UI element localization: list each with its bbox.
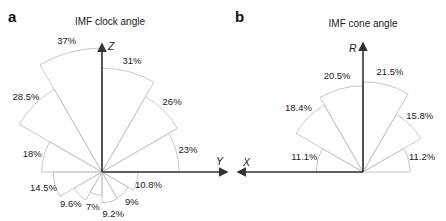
x-axis-label: X — [242, 156, 251, 168]
clock-angle-labels: 23%26%31%37%28.5%18%14.5%9.6%7%9.2%9%10.… — [13, 35, 199, 219]
panel-b: b IMF cone angle 11.2%15.8%21.5%20.5%18.… — [235, 8, 436, 172]
z-axis-label: Z — [107, 40, 115, 52]
sector-value-label: 11.2% — [409, 151, 436, 162]
sector-value-label: 7% — [86, 201, 100, 212]
panel-b-title: IMF cone angle — [329, 18, 398, 29]
sector-value-label: 21.5% — [377, 66, 404, 77]
sector-value-label: 14.5% — [30, 182, 57, 193]
rose-sector — [296, 105, 363, 172]
panel-a-title: IMF clock angle — [75, 16, 145, 27]
sector-value-label: 11.1% — [291, 151, 318, 162]
rose-sector — [102, 97, 177, 172]
y-axis-label: Y — [216, 155, 224, 167]
sector-value-label: 9.6% — [60, 198, 82, 209]
rose-sector — [74, 172, 102, 200]
sector-value-label: 28.5% — [13, 91, 40, 102]
sector-value-label: 9% — [125, 196, 139, 207]
sector-value-label: 20.5% — [324, 70, 351, 81]
sector-value-label: 18% — [23, 148, 43, 159]
sector-value-label: 26% — [163, 96, 183, 107]
sector-value-label: 15.8% — [406, 110, 433, 121]
sector-value-label: 31% — [122, 55, 142, 66]
figure: a IMF clock angle 23%26%31%37%28.5%18%14… — [0, 0, 446, 221]
r-axis-label: R — [349, 42, 357, 54]
panel-b-label: b — [235, 8, 244, 25]
rose-sector — [19, 89, 102, 172]
rose-sector — [40, 48, 102, 172]
sector-value-label: 37% — [57, 35, 77, 46]
sector-value-label: 23% — [178, 144, 198, 155]
sector-value-label: 18.4% — [285, 102, 312, 113]
panel-a: a IMF clock angle 23%26%31%37%28.5%18%14… — [8, 8, 227, 219]
sector-value-label: 10.8% — [135, 179, 162, 190]
rose-sector — [102, 68, 154, 172]
cone-angle-labels: 11.2%15.8%21.5%20.5%18.4%11.1% — [285, 66, 436, 162]
sector-value-label: 9.2% — [102, 208, 124, 219]
panel-a-label: a — [8, 8, 17, 25]
